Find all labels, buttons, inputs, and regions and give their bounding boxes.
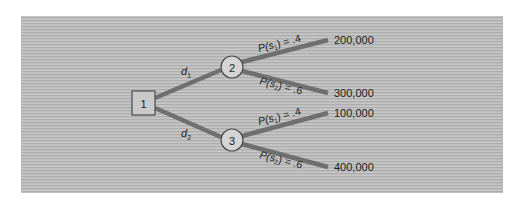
- prob-suffix: ) = .6: [277, 153, 304, 171]
- prob-suffix: ) = .6: [277, 79, 304, 97]
- decision-label-d2: d2: [181, 127, 191, 141]
- branch-d2: [155, 108, 221, 137]
- prob-prefix: P(s: [257, 111, 276, 127]
- decision-subscript: 1: [187, 72, 191, 79]
- decision-tree: 1 2 3 d1 d2 P(s1) = .4 P(s2) = .6 P(s1) …: [0, 0, 524, 203]
- probability-label-node3-s2: P(s2) = .6: [258, 148, 304, 171]
- payoff-node2-s2: 300,000: [334, 87, 374, 99]
- decision-node-label: 1: [140, 98, 146, 110]
- prob-prefix: P(s: [257, 38, 276, 54]
- chance-node-2: 2: [221, 56, 243, 78]
- payoff-node3-s1: 100,000: [334, 107, 374, 119]
- chance-node-2-label: 2: [229, 62, 235, 74]
- decision-node-1: 1: [132, 91, 155, 115]
- chance-node-3: 3: [221, 129, 243, 151]
- payoff-node2-s1: 200,000: [334, 34, 374, 46]
- decision-subscript: 2: [187, 134, 191, 141]
- figure-canvas: 1 2 3 d1 d2 P(s1) = .4 P(s2) = .6 P(s1) …: [0, 0, 524, 203]
- chance-node-3-label: 3: [229, 135, 235, 147]
- decision-label-d1: d1: [181, 65, 191, 79]
- payoff-node3-s2: 400,000: [334, 161, 374, 173]
- probability-label-node2-s2: P(s2) = .6: [258, 74, 304, 97]
